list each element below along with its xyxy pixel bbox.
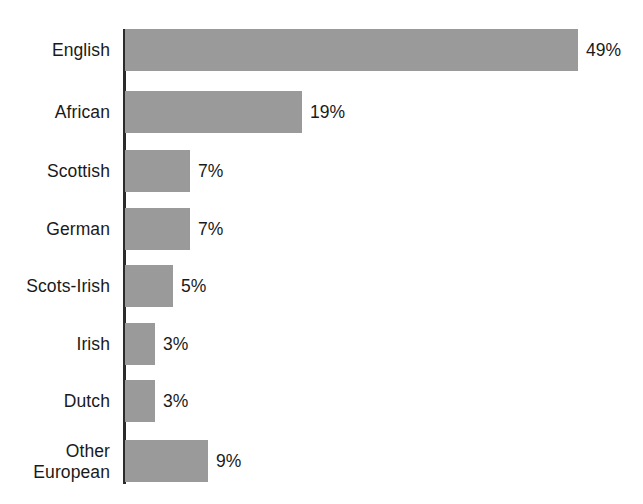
category-label-other-european: Other European [0,441,110,483]
bar-english [125,29,578,71]
value-label-irish: 3% [163,334,188,354]
value-label-scots-irish: 5% [181,276,206,296]
category-label-dutch: Dutch [0,391,110,411]
value-label-german: 7% [198,219,223,239]
value-label-dutch: 3% [163,391,188,411]
table-row: English 49% [0,29,643,71]
bar-scots-irish [125,265,173,307]
table-row: Irish 3% [0,323,643,365]
table-row: Scots-Irish 5% [0,265,643,307]
category-label-african: African [0,102,110,122]
category-label-scots-irish: Scots-Irish [0,276,110,296]
bar-other-european [125,440,208,482]
category-label-english: English [0,40,110,60]
bar-irish [125,323,155,365]
table-row: German 7% [0,208,643,250]
table-row: Other European 9% [0,440,643,482]
value-label-scottish: 7% [198,161,223,181]
category-label-irish: Irish [0,334,110,354]
table-row: Scottish 7% [0,150,643,192]
bar-african [125,91,302,133]
bar-german [125,208,190,250]
value-label-african: 19% [310,102,345,122]
table-row: African 19% [0,91,643,133]
category-label-scottish: Scottish [0,161,110,181]
bar-chart: English 49% African 19% Scottish 7% Germ… [0,0,643,504]
bar-dutch [125,380,155,422]
table-row: Dutch 3% [0,380,643,422]
category-label-german: German [0,219,110,239]
value-label-english: 49% [586,40,621,60]
bar-scottish [125,150,190,192]
value-label-other-european: 9% [216,451,241,471]
